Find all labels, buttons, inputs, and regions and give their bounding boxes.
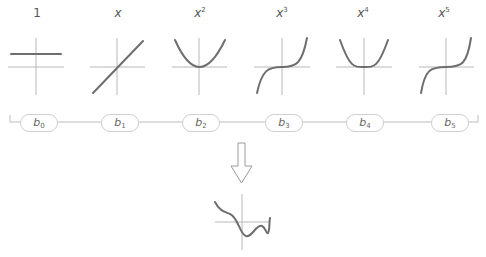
diagram-canvas bbox=[0, 0, 486, 257]
coefficient-subscript: 0 bbox=[40, 122, 44, 130]
coefficient-pill-b1: b1 bbox=[101, 114, 139, 132]
coefficient-subscript: 3 bbox=[285, 122, 289, 130]
coefficient-connector bbox=[10, 115, 478, 122]
result-plot-axes bbox=[215, 194, 270, 250]
coefficient-subscript: 4 bbox=[366, 122, 370, 130]
coefficient-pill-b4: b4 bbox=[346, 114, 384, 132]
coefficient-subscript: 2 bbox=[202, 122, 206, 130]
basis-plot-1-axes bbox=[8, 38, 64, 95]
coefficient-pill-b3: b3 bbox=[265, 114, 303, 132]
coefficient-subscript: 5 bbox=[451, 122, 455, 130]
coefficient-pill-b0: b0 bbox=[20, 114, 58, 132]
curve-quadratic bbox=[175, 40, 225, 67]
coefficient-subscript: 1 bbox=[121, 122, 125, 130]
coefficient-pill-b5: b5 bbox=[431, 114, 469, 132]
down-arrow-icon bbox=[231, 143, 252, 183]
coefficient-pill-b2: b2 bbox=[182, 114, 220, 132]
